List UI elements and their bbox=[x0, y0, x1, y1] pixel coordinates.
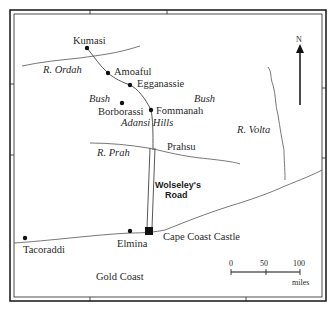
map-frame bbox=[10, 10, 326, 301]
north-arrow-icon: N bbox=[296, 35, 304, 105]
town-label-borborassi: Borborassi bbox=[98, 106, 144, 117]
river-volta bbox=[268, 67, 285, 180]
bush-label-right: Bush bbox=[194, 93, 215, 104]
map-canvas: Kumasi Amoaful Egganassie Borborassi Fom… bbox=[0, 0, 335, 313]
scale-tick-100: 100 bbox=[293, 259, 305, 268]
river-label-ordah: R. Ordah bbox=[42, 64, 82, 75]
town-dot-tacoraddi bbox=[23, 236, 27, 240]
bush-label-left: Bush bbox=[89, 93, 110, 104]
scale-tick-0: 0 bbox=[229, 259, 233, 268]
scale-unit: miles bbox=[292, 278, 309, 287]
town-label-kumasi: Kumasi bbox=[73, 35, 106, 46]
gold-coast-label: Gold Coast bbox=[96, 271, 144, 282]
prahsu-label: Prahsu bbox=[167, 141, 196, 152]
town-dot-borborassi bbox=[120, 101, 124, 105]
cape-coast-castle-label: Cape Coast Castle bbox=[163, 231, 240, 242]
adansi-hills-label: Adansi Hills bbox=[120, 117, 173, 128]
scale-tick-50: 50 bbox=[260, 259, 268, 268]
town-label-amoaful: Amoaful bbox=[114, 66, 151, 77]
scale-bar: 0 50 100 miles bbox=[229, 259, 309, 287]
town-label-elmina: Elmina bbox=[117, 238, 148, 249]
town-label-fommanah: Fommanah bbox=[156, 105, 204, 116]
river-label-volta: R. Volta bbox=[236, 124, 270, 135]
wolseleys-road bbox=[145, 148, 155, 235]
river-label-prah: R. Prah bbox=[96, 147, 130, 158]
town-dot-elmina bbox=[128, 229, 132, 233]
road-label-line1: Wolseley's bbox=[155, 180, 201, 190]
town-label-tacoraddi: Tacoraddi bbox=[23, 244, 65, 255]
town-label-egganassie: Egganassie bbox=[137, 78, 185, 89]
town-dot-egganassie bbox=[128, 83, 132, 87]
town-dot-kumasi bbox=[85, 46, 89, 50]
town-dot-amoaful bbox=[106, 71, 110, 75]
north-label: N bbox=[296, 35, 302, 44]
town-dot-fommanah bbox=[149, 108, 153, 112]
cape-coast-castle-marker bbox=[145, 227, 153, 235]
river-ordah bbox=[22, 46, 140, 66]
road-label-line2: Road bbox=[165, 190, 188, 200]
